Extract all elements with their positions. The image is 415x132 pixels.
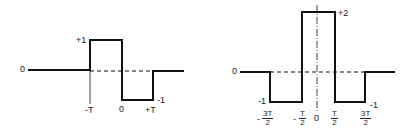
waveforms-canvas [0,0,415,132]
right-tick-minus-3T-over-2: 3T 2 [262,110,273,127]
left-tick-zero: 0 [119,105,124,114]
left-tick-plus-T: +T [145,106,156,115]
left-pulse-trace [28,40,184,100]
right-tick-3T-over-2: 3T 2 [360,110,371,127]
left-tick-minus-T: -T [85,106,94,115]
right-tick-minus-T-over-2: T 2 [299,110,306,127]
right-tick-0-sign: - [257,114,260,124]
left-top-label: +1 [76,36,86,45]
right-tick-zero: 0 [314,114,319,123]
right-tick-1-sign: - [293,114,296,124]
left-bottom-label: -1 [157,96,165,105]
right-bottom-right-label: -1 [370,101,378,110]
right-tick-T-over-2: T 2 [331,110,338,127]
right-baseline-label: 0 [232,67,237,76]
right-bottom-left-label: -1 [258,97,266,106]
right-pulse-trace [240,12,395,102]
right-top-label: +2 [338,9,348,18]
left-baseline-label: 0 [20,65,25,74]
